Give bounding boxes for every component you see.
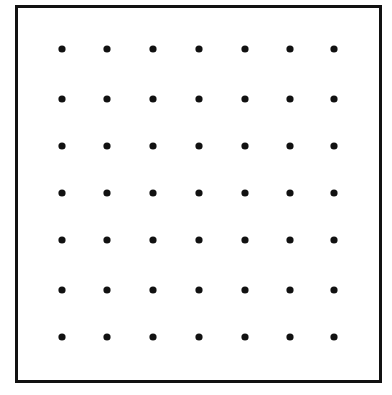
dot-marker (241, 45, 248, 52)
dot-marker (149, 45, 156, 52)
dot-marker (149, 236, 156, 243)
dot-marker (286, 95, 293, 102)
dot-marker (195, 286, 202, 293)
dot-marker (195, 236, 202, 243)
dot-marker (330, 142, 337, 149)
dot-marker (58, 286, 65, 293)
dot-marker (241, 236, 248, 243)
dot-marker (241, 333, 248, 340)
dot-marker (103, 45, 110, 52)
dot-marker (149, 333, 156, 340)
dot-marker (286, 236, 293, 243)
dot-marker (286, 189, 293, 196)
dot-marker (241, 95, 248, 102)
dot-marker (286, 333, 293, 340)
dot-marker (241, 286, 248, 293)
dot-marker (149, 142, 156, 149)
dot-marker (330, 189, 337, 196)
dot-marker (103, 333, 110, 340)
dot-marker (58, 142, 65, 149)
figure-canvas (0, 0, 392, 395)
dot-marker (149, 286, 156, 293)
dot-marker (241, 142, 248, 149)
dot-marker (195, 333, 202, 340)
dot-marker (58, 333, 65, 340)
dot-marker (58, 95, 65, 102)
dot-grid-figure (0, 0, 392, 395)
dot-marker (195, 142, 202, 149)
dot-marker (58, 45, 65, 52)
dot-marker (103, 286, 110, 293)
dot-marker (58, 189, 65, 196)
dot-marker (103, 236, 110, 243)
dot-marker (195, 189, 202, 196)
dot-marker (330, 236, 337, 243)
dot-marker (195, 95, 202, 102)
dot-marker (330, 45, 337, 52)
dot-marker (241, 189, 248, 196)
dot-marker (103, 142, 110, 149)
dot-marker (286, 142, 293, 149)
dot-marker (103, 189, 110, 196)
dot-marker (330, 95, 337, 102)
dot-marker (58, 236, 65, 243)
dot-marker (286, 286, 293, 293)
dot-marker (149, 189, 156, 196)
dot-marker (330, 333, 337, 340)
dot-marker (330, 286, 337, 293)
dot-marker (286, 45, 293, 52)
dot-marker (195, 45, 202, 52)
dot-marker (103, 95, 110, 102)
dot-marker (149, 95, 156, 102)
